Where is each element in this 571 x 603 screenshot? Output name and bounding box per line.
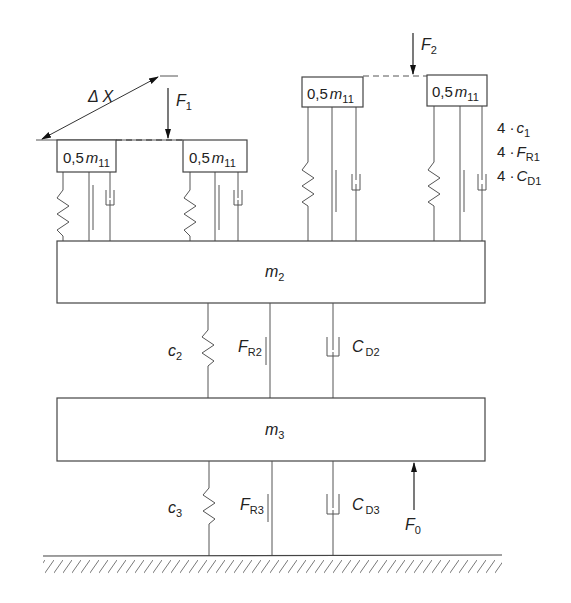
svg-text:4 ·FR1: 4 ·FR1 [497, 143, 540, 163]
svg-text:F2: F2 [421, 36, 437, 56]
level3-elements: c3 FR3 CD3 [168, 461, 380, 556]
svg-text:FR2: FR2 [238, 338, 262, 358]
mass-m2: m2 [57, 241, 485, 303]
small-mass-3: 0,5m11 [302, 77, 363, 242]
svg-text:FR3: FR3 [240, 496, 264, 516]
delta-x-dimension: Δ X [42, 76, 178, 139]
svg-text:c2: c2 [168, 342, 182, 362]
mechanical-model-diagram: Δ X F1 F2 0,5m11 0,5m11 [0, 0, 571, 603]
level2-elements: c2 FR2 CD2 [168, 303, 380, 398]
level1-legend: 4 ·c1 4 ·FR1 4 ·CD1 [497, 119, 541, 187]
svg-text:F0: F0 [405, 516, 421, 536]
ground [43, 555, 502, 575]
small-mass-1: 0,5m11 [57, 140, 116, 242]
mass-m3: m3 [57, 398, 485, 461]
delta-x-label: Δ X [87, 88, 115, 105]
svg-text:c3: c3 [168, 499, 182, 519]
small-mass-2: 0,5m11 [183, 140, 247, 242]
force-f1-arrow: F1 [168, 88, 192, 138]
svg-text:CD3: CD3 [352, 496, 380, 516]
force-f0-arrow: F0 [405, 463, 421, 536]
force-f2-arrow: F2 [413, 33, 437, 74]
small-mass-4: 0,5m11 [427, 75, 487, 242]
svg-text:F1: F1 [176, 92, 192, 112]
svg-text:CD2: CD2 [352, 338, 380, 358]
svg-text:4 ·CD1: 4 ·CD1 [497, 167, 541, 187]
svg-text:4 ·c1: 4 ·c1 [497, 119, 530, 139]
